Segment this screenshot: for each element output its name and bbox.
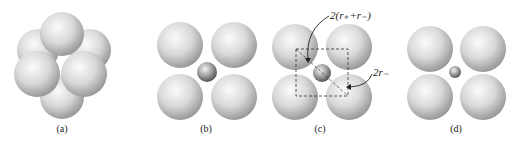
panel-label-c: (c) <box>314 123 325 134</box>
annotation-edge: 2r₋ <box>373 66 389 79</box>
panel-d-spheres <box>407 26 506 120</box>
panel-label-a: (a) <box>56 123 67 134</box>
panel-b-spheres <box>157 22 257 120</box>
panel-c-spheres <box>272 16 372 120</box>
annotation-diagonal: 2(r₊+r₋) <box>330 9 371 22</box>
figure-canvas <box>0 0 512 147</box>
panel-a-spheres <box>14 12 111 119</box>
panel-label-d: (d) <box>450 123 462 134</box>
panel-label-b: (b) <box>200 123 212 134</box>
